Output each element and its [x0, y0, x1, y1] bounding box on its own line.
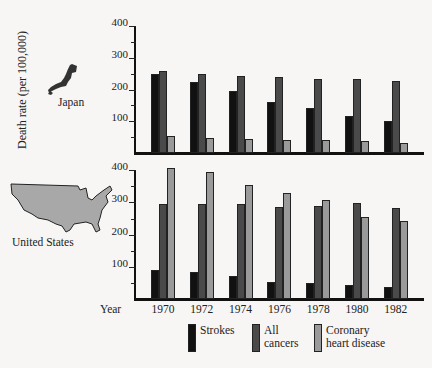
- x-tick-label: 1978: [298, 303, 338, 315]
- japan-map-icon: [44, 60, 80, 96]
- bar-japan-all-cancers-1982: [392, 81, 400, 153]
- bar-japan-coronary-heart-disease-1982: [400, 143, 408, 153]
- bar-united-states-strokes-1982: [384, 287, 392, 300]
- bar-japan-strokes-1976: [267, 102, 275, 153]
- bar-united-states-coronary-heart-disease-1970: [167, 168, 175, 300]
- bar-japan-strokes-1978: [306, 108, 314, 153]
- bar-united-states-coronary-heart-disease-1982: [400, 221, 408, 300]
- legend-label: Coronaryheart disease: [326, 324, 385, 350]
- bar-united-states-strokes-1976: [267, 282, 275, 299]
- bar-japan-strokes-1972: [190, 82, 198, 153]
- y-tick: [129, 26, 136, 27]
- y-tick-label: 100: [98, 257, 128, 269]
- bar-japan-coronary-heart-disease-1970: [167, 136, 175, 153]
- bar-japan-coronary-heart-disease-1980: [361, 141, 369, 153]
- y-tick: [131, 137, 136, 138]
- bar-united-states-coronary-heart-disease-1974: [245, 185, 253, 300]
- x-tick-label: 1972: [182, 303, 222, 315]
- bar-japan-coronary-heart-disease-1974: [245, 139, 253, 153]
- legend-swatch: [188, 324, 196, 352]
- y-tick: [129, 170, 136, 171]
- bar-japan-all-cancers-1970: [159, 71, 167, 153]
- bar-japan-all-cancers-1978: [314, 79, 322, 153]
- y-tick: [129, 267, 136, 268]
- bar-united-states-all-cancers-1970: [159, 204, 167, 300]
- bar-united-states-all-cancers-1976: [275, 207, 283, 300]
- y-tick-label: 300: [98, 192, 128, 204]
- y-tick: [131, 105, 136, 106]
- y-tick: [131, 283, 136, 284]
- us-label: United States: [12, 236, 74, 248]
- japan-label: Japan: [58, 96, 84, 108]
- y-tick: [131, 251, 136, 252]
- bar-united-states-all-cancers-1972: [198, 204, 206, 300]
- bar-united-states-all-cancers-1982: [392, 208, 400, 300]
- bar-japan-coronary-heart-disease-1978: [322, 140, 330, 153]
- legend-label-line1: Coronary: [326, 324, 385, 337]
- legend-swatch: [252, 324, 260, 352]
- y-tick-label: 400: [98, 16, 128, 28]
- bar-united-states-strokes-1970: [151, 270, 159, 300]
- y-tick: [129, 58, 136, 59]
- legend-label-line2: cancers: [264, 337, 298, 350]
- y-tick: [131, 74, 136, 75]
- bar-united-states-strokes-1974: [229, 276, 237, 299]
- bar-japan-all-cancers-1976: [275, 77, 283, 153]
- bar-japan-coronary-heart-disease-1972: [206, 138, 214, 153]
- legend-label-line2: heart disease: [326, 337, 385, 350]
- bar-united-states-coronary-heart-disease-1978: [322, 200, 330, 299]
- bar-united-states-coronary-heart-disease-1976: [283, 193, 291, 299]
- x-axis-label: Year: [100, 303, 136, 315]
- y-tick-label: 400: [98, 160, 128, 172]
- y-tick: [131, 219, 136, 220]
- x-tick-label: 1982: [376, 303, 416, 315]
- legend-swatch: [314, 324, 322, 352]
- y-tick-label: 100: [98, 111, 128, 123]
- x-tick-label: 1974: [221, 303, 261, 315]
- legend-label: Allcancers: [264, 324, 298, 350]
- y-tick-label: 200: [98, 80, 128, 92]
- bar-japan-all-cancers-1972: [198, 74, 206, 153]
- y-tick: [129, 121, 136, 122]
- legend-label-line1: Strokes: [200, 324, 235, 337]
- bar-united-states-strokes-1978: [306, 283, 314, 300]
- y-tick-label: 300: [98, 48, 128, 60]
- bar-united-states-strokes-1980: [345, 285, 353, 299]
- y-tick-label: 200: [98, 225, 128, 237]
- bar-japan-strokes-1982: [384, 121, 392, 153]
- bar-japan-strokes-1970: [151, 74, 159, 153]
- bar-japan-strokes-1980: [345, 116, 353, 153]
- bar-united-states-all-cancers-1974: [237, 204, 245, 300]
- y-axis-label: Death rate (per 100,000): [15, 31, 30, 149]
- x-tick-label: 1980: [337, 303, 377, 315]
- bar-japan-strokes-1974: [229, 91, 237, 153]
- bar-united-states-strokes-1972: [190, 272, 198, 300]
- bar-japan-all-cancers-1974: [237, 76, 245, 153]
- bar-united-states-all-cancers-1978: [314, 206, 322, 300]
- y-tick: [131, 42, 136, 43]
- x-tick-label: 1976: [259, 303, 299, 315]
- bar-united-states-coronary-heart-disease-1980: [361, 217, 369, 299]
- bar-japan-all-cancers-1980: [353, 79, 361, 153]
- y-tick: [129, 90, 136, 91]
- bar-united-states-all-cancers-1980: [353, 203, 361, 299]
- y-tick: [129, 202, 136, 203]
- y-tick: [129, 235, 136, 236]
- legend-label: Strokes: [200, 324, 235, 337]
- bar-japan-coronary-heart-disease-1976: [283, 140, 291, 153]
- y-tick: [131, 186, 136, 187]
- bar-united-states-coronary-heart-disease-1972: [206, 172, 214, 299]
- legend-label-line1: All: [264, 324, 298, 337]
- x-tick-label: 1970: [143, 303, 183, 315]
